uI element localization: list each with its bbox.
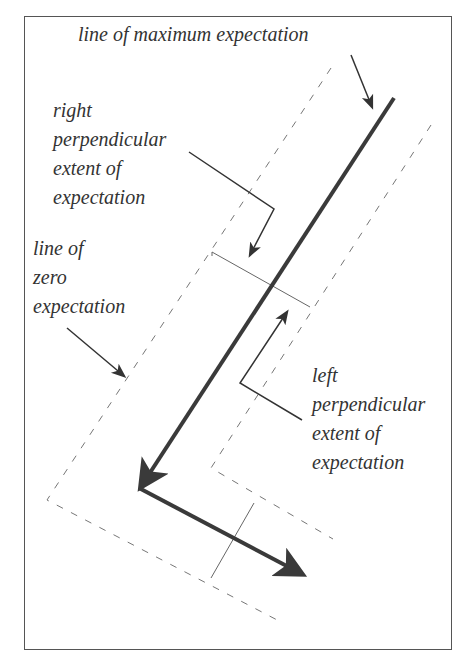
- label-max-expectation: line of maximum expectation: [78, 20, 309, 49]
- perpendicular-extent-line-lower: [211, 503, 254, 578]
- max-expectation-segment-2: [139, 488, 300, 573]
- pointer-max-expectation: [351, 55, 372, 107]
- pointer-zero-expectation: [67, 328, 124, 376]
- label-zero-expectation: line of zero expectation: [33, 234, 125, 321]
- diagram-canvas: line of maximum expectation right perpen…: [0, 0, 471, 665]
- pointer-right-perp: [189, 152, 274, 255]
- pointer-left-perp: [240, 312, 302, 420]
- label-left-perpendicular-extent: left perpendicular extent of expectation: [312, 361, 425, 477]
- label-right-perpendicular-extent: right perpendicular extent of expectatio…: [53, 96, 166, 212]
